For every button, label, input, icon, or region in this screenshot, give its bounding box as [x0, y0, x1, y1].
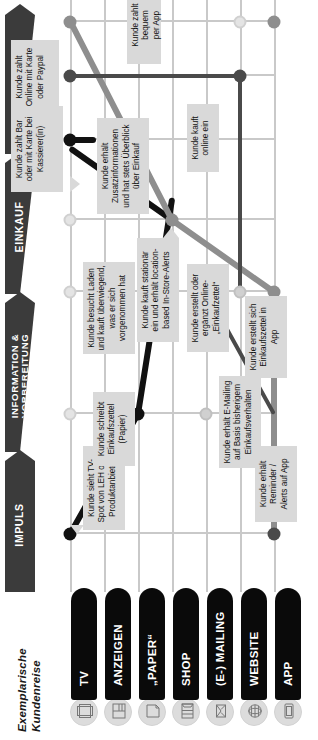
journey-segment-darkgray-3: [70, 74, 240, 78]
grid-col-1: [70, 532, 276, 534]
phase-impuls: IMPULS: [5, 450, 35, 592]
node-shop-purchase[interactable]: [166, 214, 179, 227]
callout-app-list: Kunde erstellt sichEinkaufszettel inApp: [245, 296, 287, 378]
channel-pill-app[interactable]: APP: [275, 588, 301, 700]
phase-information: INFORMATION &VORBEREITUNG: [5, 292, 35, 452]
node-mailing[interactable]: [200, 408, 213, 421]
callout-extra-info: Kunde erhältZusatzinformationenund hat s…: [97, 118, 149, 214]
node-website-buy[interactable]: [234, 70, 247, 83]
smartphone-icon: [274, 698, 302, 726]
callout-tail-tv: [70, 525, 84, 534]
phase-label: INFORMATION &VORBEREITUNG: [10, 292, 30, 452]
callout-store-visit: Kunde besucht Ladenund kauft überwiegend…: [83, 262, 135, 354]
channel-legend: Exemplarische Kundenreise TV ANZEIGEN: [1, 592, 318, 740]
callout-instore-alerts: Kunde kauft stationärein und erhält loca…: [137, 238, 179, 342]
callout-online-buy: Kunde kauftonline ein: [187, 104, 219, 172]
paper-sheet-icon: [138, 698, 166, 726]
node-app-end[interactable]: [268, 16, 281, 29]
channel-pill-anzeigen[interactable]: ANZEIGEN: [105, 588, 131, 700]
phase-label: IMPULS: [14, 450, 25, 592]
journey-canvas: Kunde sieht TV-Spot von LEH oderProdukta…: [37, 0, 318, 592]
channel-pill-shop[interactable]: SHOP: [173, 588, 199, 700]
node-tv-grid-a[interactable]: [64, 286, 77, 299]
node-online-payment[interactable]: [64, 70, 77, 83]
channel-label: ANZEIGEN: [105, 624, 131, 686]
callout-cash-payment: Kunde zahlt Baroder mit Karte beiKassier…: [11, 106, 63, 192]
envelope-icon: [206, 698, 234, 726]
node-cash-payment[interactable]: [64, 134, 77, 147]
channel-pill-tv[interactable]: TV: [71, 588, 97, 700]
customer-journey-poster: Exemplarische Kundenreise TV ANZEIGEN: [1, 0, 318, 740]
callout-tail-instore: [163, 228, 179, 238]
callout-online-list: Kunde erstellt oderergänzt Online-„Einka…: [187, 264, 229, 352]
channel-pill-mailing[interactable]: (E-) MAILING: [207, 588, 233, 700]
node-website-end[interactable]: [234, 16, 247, 29]
callout-app-reminder: Kunde erhältReminder /Alerts auf App: [255, 446, 297, 522]
callout-app-payment: Kunde zahlt bequemper App: [127, 0, 161, 64]
node-tv-einkauf[interactable]: [64, 214, 77, 227]
node-app-payment[interactable]: [64, 16, 77, 29]
channel-pill-website[interactable]: WEBSITE: [241, 588, 267, 700]
store-icon: [172, 698, 200, 726]
page-title: Exemplarische Kundenreise: [15, 600, 44, 732]
channel-label: SHOP: [173, 652, 199, 686]
callout-paper-list: Kunde schreibtEinkaufszettel(Papier): [93, 392, 135, 466]
channel-label: (E-) MAILING: [207, 611, 233, 686]
node-app-reminder[interactable]: [268, 528, 281, 541]
channel-label: APP: [275, 661, 301, 686]
channel-pill-paper[interactable]: „PAPER“: [139, 588, 165, 700]
channel-label: WEBSITE: [241, 632, 267, 687]
newspaper-ad-icon: [104, 698, 132, 726]
channel-label: „PAPER“: [139, 634, 165, 686]
tv-icon: [70, 698, 98, 726]
callout-online-payment: Kunde zahltOnline mit Karteoder Paypal: [11, 40, 59, 114]
channel-label: TV: [71, 671, 97, 686]
node-tv-grid-b[interactable]: [64, 408, 77, 421]
journey-segment-darkgray-2: [238, 76, 242, 292]
globe-icon: [240, 698, 268, 726]
callout-tail-cash: [70, 176, 80, 192]
